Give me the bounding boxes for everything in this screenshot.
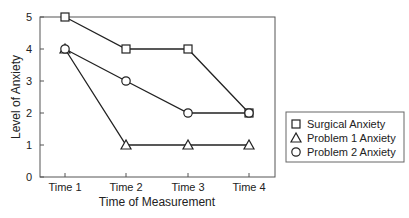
data-point-circle bbox=[61, 45, 69, 53]
y-tick-label: 3 bbox=[26, 75, 32, 87]
data-point-circle bbox=[184, 109, 192, 117]
y-tick-label: 5 bbox=[26, 11, 32, 23]
data-point-square bbox=[122, 45, 130, 53]
y-tick-label: 0 bbox=[26, 171, 32, 183]
data-point-square bbox=[61, 13, 69, 21]
x-axis-label: Time of Measurement bbox=[99, 195, 216, 209]
x-tick-label: Time 2 bbox=[109, 181, 142, 193]
legend-label: Problem 2 Anxiety bbox=[307, 146, 396, 158]
x-tick-label: Time 4 bbox=[232, 181, 265, 193]
x-tick-label: Time 3 bbox=[171, 181, 204, 193]
legend-label: Surgical Anxiety bbox=[307, 118, 386, 130]
x-tick-label: Time 1 bbox=[48, 181, 81, 193]
data-point-square bbox=[184, 45, 192, 53]
data-point-circle bbox=[122, 77, 130, 85]
line-chart: 012345 Time 1Time 2Time 3Time 4 Time of … bbox=[0, 0, 409, 218]
series-line-circle bbox=[65, 49, 249, 113]
y-tick-label: 4 bbox=[26, 43, 32, 55]
y-tick-label: 2 bbox=[26, 107, 32, 119]
legend: Surgical AnxietyProblem 1 AnxietyProblem… bbox=[286, 112, 404, 162]
y-axis-label: Level of Anxiety bbox=[9, 55, 23, 139]
legend-square-icon bbox=[292, 120, 300, 128]
legend-label: Problem 1 Anxiety bbox=[307, 132, 396, 144]
legend-circle-icon bbox=[292, 148, 300, 156]
data-point-circle bbox=[245, 109, 253, 117]
y-tick-label: 1 bbox=[26, 139, 32, 151]
series-line-square bbox=[65, 17, 249, 113]
